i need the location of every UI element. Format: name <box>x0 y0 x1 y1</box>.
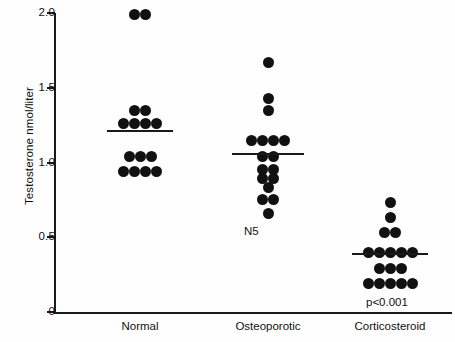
data-point <box>140 166 151 177</box>
data-point <box>385 278 396 289</box>
mean-line <box>232 153 304 155</box>
data-point <box>151 166 162 177</box>
group-annotation-corticosteroid: p<0.001 <box>0 296 455 308</box>
data-point <box>129 118 140 129</box>
data-point <box>129 105 140 116</box>
data-point <box>140 9 151 20</box>
scatter-plot-figure: Testosterone nmol/liter 2.01.51.00.50 N5… <box>0 0 455 342</box>
data-point <box>385 263 396 274</box>
x-axis-label-corticosteroid: Corticosteroid <box>330 320 450 332</box>
data-point <box>124 151 135 162</box>
data-point <box>118 166 129 177</box>
data-point <box>374 247 385 258</box>
data-point <box>385 212 396 223</box>
y-tick-label-wrap: 0 <box>0 306 55 318</box>
data-point <box>385 247 396 258</box>
data-point <box>396 263 407 274</box>
data-point <box>363 247 374 258</box>
mean-line <box>352 253 428 255</box>
y-tick-label: 0 <box>13 306 55 318</box>
plot-area: Testosterone nmol/liter 2.01.51.00.50 N5… <box>0 0 455 342</box>
data-point <box>263 105 274 116</box>
data-point <box>140 118 151 129</box>
y-tick-label-wrap: 1.5 <box>0 82 55 94</box>
data-point <box>374 278 385 289</box>
data-point <box>263 182 274 193</box>
data-point <box>374 263 385 274</box>
data-point <box>257 135 268 146</box>
x-axis-line <box>54 312 452 314</box>
data-point <box>385 197 396 208</box>
y-tick-label: 2.0 <box>13 7 55 19</box>
data-point <box>263 208 274 219</box>
data-point <box>407 278 418 289</box>
mean-line <box>107 130 173 132</box>
data-point <box>146 151 157 162</box>
y-tick-label: 1.0 <box>13 157 55 169</box>
data-point <box>257 194 268 205</box>
data-point <box>246 135 257 146</box>
data-point <box>396 278 407 289</box>
data-point <box>363 278 374 289</box>
data-point <box>279 135 290 146</box>
group-annotation-osteoporotic: N5 <box>0 225 455 237</box>
x-axis-label-normal: Normal <box>80 320 200 332</box>
data-point <box>140 105 151 116</box>
data-point <box>396 247 407 258</box>
data-point <box>129 166 140 177</box>
data-point <box>263 93 274 104</box>
data-point <box>151 118 162 129</box>
data-point <box>135 151 146 162</box>
data-point <box>118 118 129 129</box>
y-tick-label-wrap: 1.0 <box>0 157 55 169</box>
data-point <box>263 57 274 68</box>
data-point <box>407 247 418 258</box>
data-point <box>268 194 279 205</box>
data-point <box>129 9 140 20</box>
x-axis-label-osteoporotic: Osteoporotic <box>208 320 328 332</box>
data-point <box>268 135 279 146</box>
y-tick-label-wrap: 2.0 <box>0 7 55 19</box>
y-tick-label: 1.5 <box>13 82 55 94</box>
